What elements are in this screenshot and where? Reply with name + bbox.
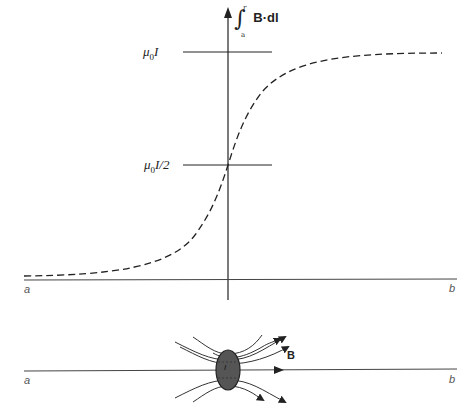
y-axis-arrow-icon [224, 7, 232, 18]
level-label-mu0I: μ0I [143, 44, 158, 62]
integral-upper-limit: r [243, 4, 246, 12]
x-axis-start-label: a [24, 283, 30, 295]
y-axis-label: ∫ r a B·dl [234, 4, 275, 29]
x-axis [24, 279, 457, 280]
diagram-canvas [0, 0, 470, 415]
integrand: B·dl [253, 10, 278, 25]
path-start-label: a [24, 374, 30, 386]
top-graph [24, 7, 457, 300]
path-end-label: b [449, 373, 455, 385]
level-label-mu0I-half: μ0I/2 [144, 157, 169, 175]
integral-lower-limit: a [241, 31, 245, 39]
wire-cross-section [216, 350, 240, 390]
field-arrow-icon [274, 366, 284, 374]
bottom-diagram [24, 335, 457, 402]
current-label-I: I [224, 363, 226, 372]
field-label-B: B [287, 349, 295, 361]
x-axis-end-label: b [449, 282, 455, 294]
